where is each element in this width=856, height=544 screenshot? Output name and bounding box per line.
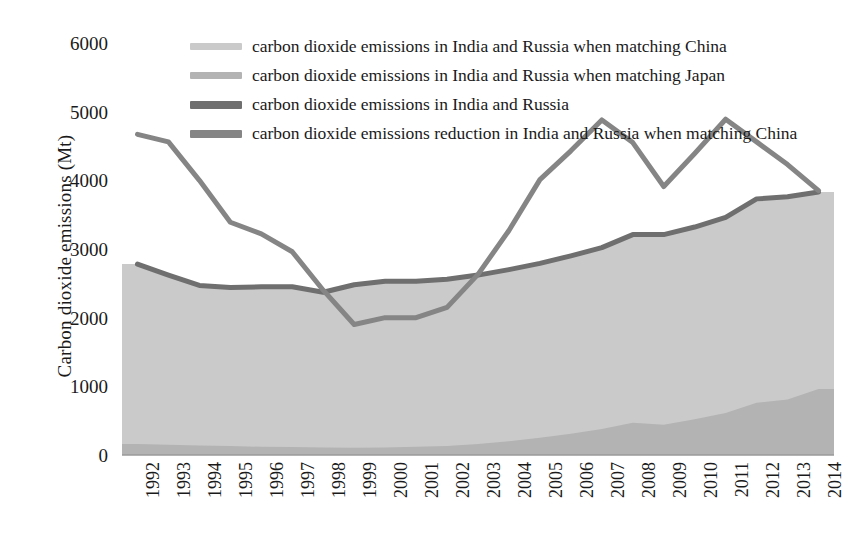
x-tick-label: 1996 [268, 462, 286, 498]
line-dark-swatch [190, 101, 242, 109]
y-tick-label: 4000 [46, 171, 108, 190]
area-series-group [122, 192, 834, 455]
x-tick-label: 2006 [578, 462, 596, 498]
y-tick-label: 5000 [46, 102, 108, 121]
y-tick-label: 2000 [46, 308, 108, 327]
x-tick-label: 1999 [361, 462, 379, 498]
x-tick-label: 2000 [392, 462, 410, 498]
x-tick-label: 2013 [795, 462, 813, 498]
x-tick-label: 2012 [764, 462, 782, 498]
x-tick-label: 1993 [175, 462, 193, 498]
legend-item[interactable]: carbon dioxide emissions in India and Ru… [190, 32, 830, 61]
x-tick-label: 2007 [609, 462, 627, 498]
x-tick-label: 2003 [485, 462, 503, 498]
x-tick-label: 1998 [330, 462, 348, 498]
x-tick-label: 1997 [299, 462, 317, 498]
x-tick-label: 2008 [640, 462, 658, 498]
area-mid-swatch [190, 72, 242, 79]
x-tick-label: 1994 [206, 462, 224, 498]
x-tick-label: 2011 [733, 462, 751, 497]
chart-container: Carbon dioxide emissions (Mt) 0100020003… [0, 0, 856, 544]
legend-item-label: carbon dioxide emissions reduction in In… [252, 125, 797, 143]
legend-item-label: carbon dioxide emissions in India and Ru… [252, 38, 727, 56]
y-tick-label: 0 [46, 446, 108, 465]
x-tick-label: 2009 [671, 462, 689, 498]
x-tick-label: 2005 [547, 462, 565, 498]
y-tick-label: 3000 [46, 240, 108, 259]
legend-item-label: carbon dioxide emissions in India and Ru… [252, 67, 725, 85]
y-tick-label: 1000 [46, 377, 108, 396]
legend-item[interactable]: carbon dioxide emissions reduction in In… [190, 119, 830, 148]
x-tick-label: 2004 [516, 462, 534, 498]
x-tick-label: 2010 [702, 462, 720, 498]
area-light-swatch [190, 43, 242, 50]
legend-item[interactable]: carbon dioxide emissions in India and Ru… [190, 61, 830, 90]
legend-item-label: carbon dioxide emissions in India and Ru… [252, 96, 569, 114]
x-tick-label: 2002 [454, 462, 472, 498]
x-tick-label: 2001 [423, 462, 441, 498]
x-tick-label: 1995 [237, 462, 255, 498]
legend-item[interactable]: carbon dioxide emissions in India and Ru… [190, 90, 830, 119]
x-tick-label: 1992 [144, 462, 162, 498]
y-tick-label: 6000 [46, 34, 108, 53]
y-axis-tick-labels: 0100020003000400050006000 [46, 0, 108, 544]
line-reduction-swatch [190, 130, 242, 138]
x-tick-label: 2014 [826, 462, 844, 498]
x-axis-tick-labels: 1992199319941995199619971998199920002001… [122, 462, 834, 544]
chart-legend: carbon dioxide emissions in India and Ru… [190, 32, 830, 148]
